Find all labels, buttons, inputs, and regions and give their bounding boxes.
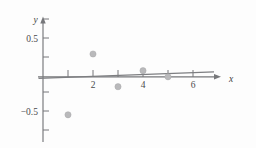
scatter-plot-figure: 0.5 −0.5 y 2 4 6 x: [0, 0, 256, 148]
x-tick-label-6: 6: [191, 80, 196, 90]
chart-canvas: 0.5 −0.5 y 2 4 6 x: [0, 0, 256, 148]
data-point: [115, 84, 121, 90]
x-tick-label-2: 2: [91, 80, 96, 90]
x-tick-label-4: 4: [141, 80, 146, 90]
data-point-group: [65, 51, 171, 118]
x-axis-group: 2 4 6 x: [38, 70, 234, 90]
data-point: [90, 51, 96, 57]
data-point: [140, 68, 146, 74]
y-tick-label-negative: −0.5: [21, 107, 38, 117]
x-axis-label: x: [228, 74, 234, 84]
x-axis-arrow-icon: [214, 74, 221, 79]
y-axis-label: y: [32, 15, 38, 25]
data-point: [165, 74, 171, 80]
y-axis-arrow-icon: [40, 17, 45, 24]
y-tick-label-positive: 0.5: [26, 34, 38, 44]
data-point: [65, 112, 71, 118]
